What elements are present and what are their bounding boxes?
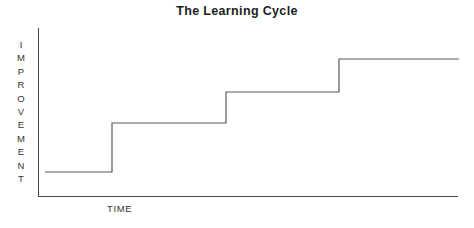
plot-area bbox=[0, 0, 474, 228]
chart-figure: The Learning Cycle I M P R O V E M E N T… bbox=[0, 0, 474, 228]
step-line-series bbox=[45, 59, 459, 172]
